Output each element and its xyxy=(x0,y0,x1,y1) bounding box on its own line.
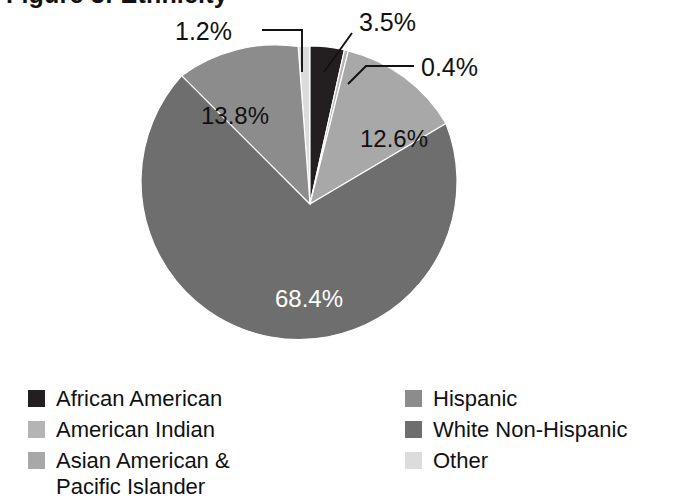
legend-swatch-white-non-hispanic xyxy=(405,421,422,438)
pie-svg: 1.2% 3.5% 0.4% 13.8% 12.6% 68.4% xyxy=(0,0,680,392)
legend-column-right: Hispanic White Non-Hispanic Other xyxy=(405,386,627,479)
legend-swatch-other xyxy=(405,452,422,469)
legend-item-asian-american[interactable]: Asian American & Pacific Islander xyxy=(28,448,230,500)
legend-label-other: Other xyxy=(433,448,488,474)
callout-value-american-indian: 0.4% xyxy=(421,53,478,81)
legend-label-american-indian: American Indian xyxy=(56,417,215,443)
legend-item-hispanic[interactable]: Hispanic xyxy=(405,386,627,412)
legend-label-african-american: African American xyxy=(56,386,222,412)
chart-legend: African American American Indian Asian A… xyxy=(0,386,680,500)
legend-column-left: African American American Indian Asian A… xyxy=(28,386,230,500)
legend-swatch-american-indian xyxy=(28,421,45,438)
legend-label-asian-american: Asian American & Pacific Islander xyxy=(56,448,230,500)
legend-swatch-hispanic xyxy=(405,390,422,407)
legend-label-white-non-hispanic: White Non-Hispanic xyxy=(433,417,627,443)
legend-item-white-non-hispanic[interactable]: White Non-Hispanic xyxy=(405,417,627,443)
legend-label-hispanic: Hispanic xyxy=(433,386,517,412)
slice-value-white-non-hispanic: 68.4% xyxy=(275,285,343,312)
legend-swatch-asian-american xyxy=(28,452,45,469)
callout-value-african-american: 3.5% xyxy=(359,8,416,36)
legend-item-african-american[interactable]: African American xyxy=(28,386,230,412)
slice-value-hispanic: 13.8% xyxy=(201,102,269,129)
pie-graphic: 1.2% 3.5% 0.4% 13.8% 12.6% 68.4% xyxy=(0,0,680,392)
slice-value-asian-american: 12.6% xyxy=(360,125,428,152)
legend-swatch-african-american xyxy=(28,390,45,407)
legend-item-other[interactable]: Other xyxy=(405,448,627,474)
callout-value-other: 1.2% xyxy=(175,17,232,45)
pie-chart-figure: Figure 3: Ethnicity 1.2 xyxy=(0,0,680,500)
legend-item-american-indian[interactable]: American Indian xyxy=(28,417,230,443)
